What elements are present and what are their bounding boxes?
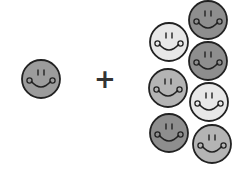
plus-operator: + <box>94 64 116 94</box>
smiley-face-icon <box>193 125 231 163</box>
smiley-face-icon <box>189 1 227 39</box>
smiley-face-icon <box>22 60 60 98</box>
smiley-face-group <box>149 1 231 163</box>
smiley-face-icon <box>150 114 188 152</box>
single-smiley-face <box>22 60 60 98</box>
smiley-face-icon <box>149 69 187 107</box>
diagram-canvas: + <box>0 0 242 173</box>
smiley-face-icon <box>189 42 227 80</box>
smiley-face-icon <box>150 23 188 61</box>
smiley-face-icon <box>190 83 228 121</box>
